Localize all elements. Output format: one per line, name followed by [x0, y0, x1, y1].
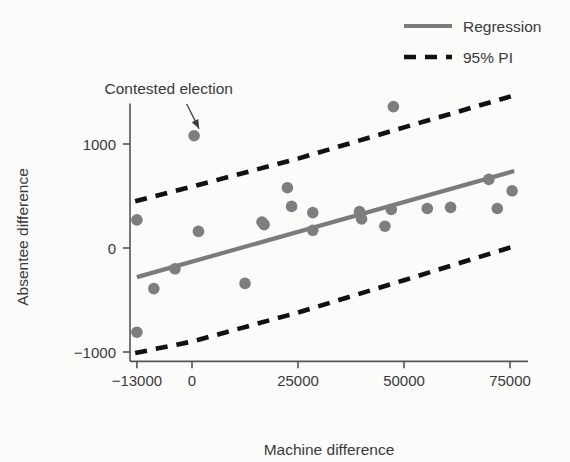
legend: Regression 95% PI: [404, 18, 541, 66]
x-tick-label: −13000: [112, 372, 162, 389]
x-tick-label: 75000: [489, 372, 531, 389]
data-point: [379, 220, 391, 232]
data-point: [131, 326, 143, 338]
y-tick-labels: 10000−1000: [74, 136, 116, 361]
data-point: [356, 213, 368, 225]
x-tick-label: 25000: [277, 372, 319, 389]
data-point: [282, 182, 294, 194]
y-tick-label: 1000: [83, 136, 116, 153]
axis-ticks: [123, 144, 510, 368]
y-axis-label: Absentee difference: [14, 168, 31, 306]
regression-line: [137, 171, 514, 277]
data-point: [286, 201, 298, 213]
data-point: [445, 202, 457, 214]
scatter-plot-figure: −130000250005000075000 10000−1000 Contes…: [0, 0, 570, 462]
data-point: [258, 219, 270, 231]
regression-trend-line: [137, 171, 514, 277]
x-axis-label: Machine difference: [264, 441, 395, 458]
data-point: [188, 130, 200, 142]
data-point: [239, 278, 251, 290]
data-point: [193, 226, 205, 238]
data-point: [506, 185, 518, 197]
x-tick-label: 50000: [383, 372, 425, 389]
annotation-arrowhead: [192, 119, 199, 129]
y-tick-label: −1000: [74, 344, 116, 361]
data-point: [131, 214, 143, 226]
data-point: [307, 225, 319, 237]
axes: [130, 103, 528, 361]
data-point: [307, 207, 319, 219]
x-tick-labels: −130000250005000075000: [112, 372, 531, 389]
annotations: Contested election: [104, 80, 232, 129]
data-point: [386, 204, 398, 216]
data-point: [388, 101, 400, 113]
data-point: [492, 203, 504, 215]
chart-canvas: −130000250005000075000 10000−1000 Contes…: [0, 0, 570, 462]
data-point: [422, 203, 434, 215]
x-tick-label: 0: [188, 372, 196, 389]
data-point: [148, 283, 160, 295]
data-point: [169, 263, 181, 275]
data-point: [483, 174, 495, 186]
legend-label-regression: Regression: [463, 18, 541, 35]
legend-label-95-pi: 95% PI: [463, 49, 513, 66]
annotation-label: Contested election: [104, 80, 232, 97]
y-tick-label: 0: [108, 240, 116, 257]
